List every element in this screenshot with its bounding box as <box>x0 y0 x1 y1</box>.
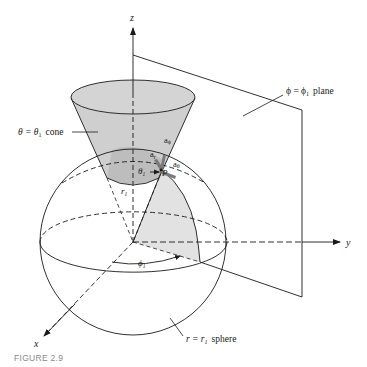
figure-canvas: z y x θ = θ1cone ϕ = ϕ1plane r = r1spher… <box>0 0 367 367</box>
a-theta-label: aθ <box>173 159 180 169</box>
y-axis-label: y <box>345 237 351 248</box>
sphere-leader <box>170 318 183 336</box>
r1-label: r1 <box>121 186 128 197</box>
phi1-arc <box>112 256 180 264</box>
cone-label: θ = θ1cone <box>18 127 63 138</box>
plane-label: ϕ = ϕ1plane <box>286 86 334 97</box>
spherical-coordinates-diagram: z y x θ = θ1cone ϕ = ϕ1plane r = r1spher… <box>0 0 367 367</box>
figure-caption: FIGURE 2.9 <box>14 353 63 363</box>
sphere-label: r = r1sphere <box>186 334 236 345</box>
z-axis-label: z <box>129 12 134 23</box>
phi1-label: ϕ1 <box>138 258 146 269</box>
x-axis-label: x <box>33 338 39 349</box>
plane-leader <box>243 95 283 116</box>
point-p-label: P <box>161 168 168 178</box>
